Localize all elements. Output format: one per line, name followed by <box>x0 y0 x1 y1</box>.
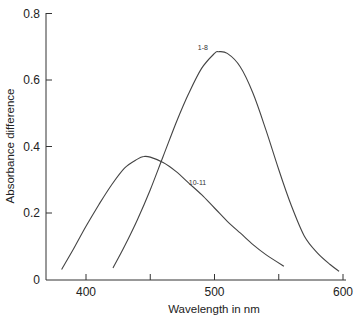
x-tick-label: 400 <box>76 285 96 299</box>
x-tick-label: 500 <box>204 285 224 299</box>
absorbance-chart: 00.20.40.60.8 400500600 Absorbance diffe… <box>0 0 363 323</box>
annotation-layer: 1-810-11 <box>189 44 208 186</box>
series-label: 1-8 <box>198 44 208 51</box>
series-line-1-8 <box>113 51 339 271</box>
x-tick-label: 600 <box>333 285 353 299</box>
x-axis-title: Wavelength in nm <box>168 303 260 315</box>
y-axis-title: Absorbance difference <box>4 89 16 204</box>
series-line-10-11 <box>62 156 284 269</box>
y-tick-label: 0 <box>33 273 40 287</box>
x-axis: 400500600 <box>46 274 353 299</box>
series-layer <box>62 51 340 271</box>
y-tick-label: 0.6 <box>23 73 40 87</box>
series-label: 10-11 <box>189 179 206 186</box>
y-tick-label: 0.2 <box>23 206 40 220</box>
y-tick-label: 0.8 <box>23 7 40 21</box>
y-tick-label: 0.4 <box>23 140 40 154</box>
y-axis: 00.20.40.60.8 <box>23 7 52 287</box>
